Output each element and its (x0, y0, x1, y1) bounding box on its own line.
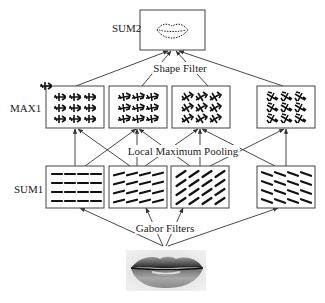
max1-label: MAX1 (10, 102, 41, 114)
lip-image (126, 250, 206, 291)
shape-filter-label: Shape Filter (152, 62, 207, 74)
sum2-box (140, 10, 205, 50)
gabor-filters-label: Gabor Filters (135, 222, 195, 234)
sum1-label: SUM1 (14, 183, 43, 195)
local-max-pooling-label: Local Maximum Pooling (127, 145, 240, 157)
sum2-label: SUM2 (112, 22, 141, 34)
